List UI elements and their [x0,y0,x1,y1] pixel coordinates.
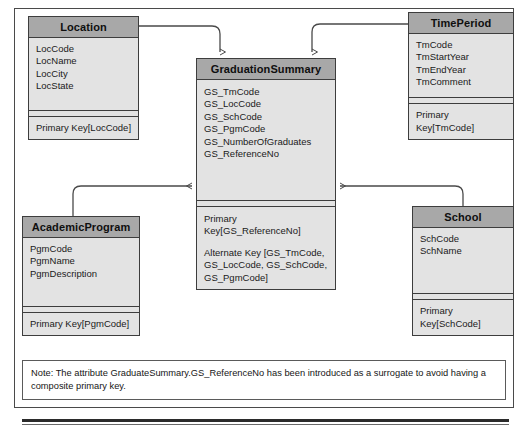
attribute-row: TmStartYear [416,51,513,63]
entity-school-keys: Primary Key[SchCode] [413,300,513,335]
diagram-note: Note: The attribute GraduateSummary.GS_R… [22,360,506,400]
attribute-row: LocCity [36,68,138,80]
attribute-row: LocName [36,55,138,67]
entity-timeperiod[interactable]: TimePeriod TmCode TmStartYear TmEndYear … [408,12,514,140]
attribute-row: PgmDescription [30,268,139,280]
entity-separator [29,110,138,117]
entity-location-keys: Primary Key[LocCode] [29,117,138,139]
attribute-row: SchCode [420,233,513,245]
entity-location-attributes: LocCode LocName LocCity LocState [29,38,138,110]
bottom-divider [22,419,509,422]
attribute-row: LocCode [36,43,138,55]
attribute-row: PgmCode [30,243,139,255]
alternate-key-label: Alternate Key [GS_TmCode, GS_LocCode, GS… [204,247,329,284]
entity-academicprogram-keys: Primary Key[PgmCode] [23,313,139,335]
attribute-row: LocState [36,80,138,92]
entity-separator [23,306,139,313]
bottom-divider-secondary [22,424,509,425]
entity-graduationsummary-keys: Primary Key[GS_ReferenceNo] Alternate Ke… [197,207,335,289]
attribute-row: GS_SchCode [204,111,335,123]
entity-graduationsummary[interactable]: GraduationSummary GS_TmCode GS_LocCode G… [196,58,336,290]
attribute-row: GS_TmCode [204,86,335,98]
key-spacer [204,238,329,247]
attribute-row: GS_ReferenceNo [204,148,335,160]
entity-graduationsummary-title: GraduationSummary [197,59,335,80]
attribute-row: TmCode [416,39,513,51]
attribute-row: TmComment [416,76,513,88]
attribute-row: PgmName [30,255,139,267]
primary-key-label: Primary Key[LocCode] [36,122,132,134]
entity-timeperiod-attributes: TmCode TmStartYear TmEndYear TmComment [409,34,513,97]
entity-school[interactable]: School SchCode SchName Primary Key[SchCo… [412,206,514,336]
entity-academicprogram-title: AcademicProgram [23,217,139,238]
attribute-row: GS_LocCode [204,98,335,110]
entity-separator [409,97,513,104]
primary-key-label: Primary Key[PgmCode] [30,318,133,330]
entity-separator [197,200,335,207]
entity-school-title: School [413,207,513,228]
entity-separator [413,293,513,300]
primary-key-label: Primary Key[SchCode] [420,305,507,330]
entity-academicprogram-attributes: PgmCode PgmName PgmDescription [23,238,139,306]
entity-timeperiod-title: TimePeriod [409,13,513,34]
entity-academicprogram[interactable]: AcademicProgram PgmCode PgmName PgmDescr… [22,216,140,336]
entity-timeperiod-keys: Primary Key[TmCode] [409,104,513,139]
entity-location-title: Location [29,17,138,38]
attribute-row: GS_PgmCode [204,123,335,135]
primary-key-label: Primary Key[TmCode] [416,109,507,134]
primary-key-label: Primary Key[GS_ReferenceNo] [204,213,329,238]
attribute-row: GS_NumberOfGraduates [204,136,335,148]
attribute-row: TmEndYear [416,64,513,76]
entity-school-attributes: SchCode SchName [413,228,513,293]
attribute-row: SchName [420,245,513,257]
entity-location[interactable]: Location LocCode LocName LocCity LocStat… [28,16,139,140]
entity-graduationsummary-attributes: GS_TmCode GS_LocCode GS_SchCode GS_PgmCo… [197,80,335,200]
